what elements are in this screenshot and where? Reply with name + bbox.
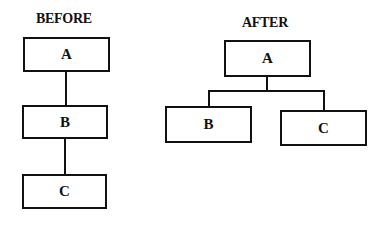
node-label: C [59, 183, 70, 200]
after-node-c: C [280, 110, 367, 146]
before-edge-a-b [65, 72, 67, 105]
before-title: BEFORE [36, 11, 92, 27]
node-label: A [262, 50, 273, 67]
after-node-a: A [224, 40, 311, 77]
after-title: AFTER [242, 15, 288, 31]
before-node-c: C [22, 174, 107, 209]
node-label: B [203, 116, 213, 133]
after-node-b: B [165, 106, 252, 143]
after-edge-crossbar [208, 90, 325, 92]
node-label: B [60, 114, 70, 131]
after-edge-a-b [208, 90, 210, 107]
before-node-b: B [22, 105, 108, 139]
node-label: A [61, 46, 72, 63]
after-edge-a-c [323, 90, 325, 110]
before-node-a: A [23, 37, 110, 72]
node-label: C [318, 120, 329, 137]
before-edge-b-c [64, 139, 66, 174]
